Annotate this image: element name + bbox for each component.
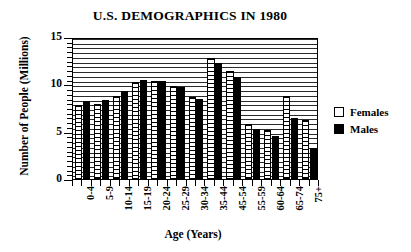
y-axis-minor-tick [67,100,72,101]
y-axis-minor-tick [67,90,72,91]
bar-males [272,136,279,179]
legend: Females Males [334,104,408,138]
legend-swatch-females-icon [334,107,344,117]
bar-females [94,104,101,179]
x-axis-category-label: 55-59 [256,186,270,230]
bar-males [140,80,147,179]
x-axis-category-label: 35-44 [218,186,232,230]
y-axis-tick-label: 15 [36,30,62,42]
bar-females [113,96,120,179]
y-axis-minor-tick [67,137,72,138]
y-axis-minor-tick [67,147,72,148]
y-axis-minor-tick [67,76,72,77]
bar-females [151,81,158,179]
chart-container: U.S. DEMOGRAPHICS IN 1980 Number of Peop… [0,0,411,252]
y-axis-tick-label: 10 [36,77,62,89]
y-axis-minor-tick [67,57,72,58]
y-axis-minor-tick [67,175,72,176]
chart-title: U.S. DEMOGRAPHICS IN 1980 [58,8,322,24]
bar-females [132,82,139,179]
y-axis-minor-tick [67,123,72,124]
bar-females [245,124,252,179]
bar-series-group [73,39,317,179]
y-axis-minor-tick [67,43,72,44]
x-axis-title: Age (Years) [68,228,318,240]
y-axis-title: Number of People (Millions) [18,26,30,186]
bar-males [121,91,128,179]
y-axis-minor-tick [67,47,72,48]
x-axis-category-label: 10-14 [123,186,137,230]
y-axis-minor-tick [67,95,72,96]
bar-females [170,86,177,179]
y-axis-minor-tick [67,109,72,110]
bar-males [158,81,165,179]
legend-item-males: Males [334,121,408,136]
x-axis-category-label: 25-29 [180,186,194,230]
y-axis-minor-tick [67,66,72,67]
y-axis-minor-tick [67,152,72,153]
x-axis-category-label: 30-34 [199,186,213,230]
bar-females [189,97,196,179]
y-axis-minor-tick [67,104,72,105]
y-axis-minor-tick [67,166,72,167]
legend-swatch-males-icon [334,124,344,134]
bar-females [264,130,271,179]
x-axis-category-labels: 0-45-910-1415-1920-2425-2930-3435-4445-5… [72,186,318,230]
bar-males [253,129,260,179]
bar-males [177,87,184,179]
x-axis-category-label: 5-9 [104,186,118,230]
bar-females [302,120,309,179]
y-axis-tick-label: 5 [36,125,62,137]
y-axis-major-tick [64,180,72,181]
y-axis-minor-tick [67,81,72,82]
y-axis-major-tick [64,133,72,134]
bar-males [310,148,317,179]
y-axis-minor-tick [67,62,72,63]
y-axis-minor-tick [67,71,72,72]
bar-males [102,100,109,179]
bar-males [291,118,298,179]
plot-area [72,38,318,180]
x-axis-category-label: 65-74 [294,186,308,230]
x-axis-category-label: 60-64 [275,186,289,230]
bar-females [283,96,290,179]
y-axis-minor-tick [67,52,72,53]
bar-males [83,101,90,179]
x-axis-category-label: 20-24 [161,186,175,230]
x-axis-category-label: 75+ [313,186,327,230]
y-axis-minor-tick [67,118,72,119]
x-axis-category-label: 0-4 [85,186,99,230]
x-axis-category-label: 15-19 [142,186,156,230]
bar-females [226,71,233,179]
legend-label-males: Males [350,123,378,135]
y-axis-minor-tick [67,161,72,162]
bar-males [215,63,222,179]
bar-females [75,105,82,179]
y-axis-minor-tick [67,142,72,143]
y-axis-minor-tick [67,156,72,157]
y-axis-major-tick [64,38,72,39]
bar-males [196,99,203,179]
bar-females [207,58,214,179]
y-axis-major-tick [64,85,72,86]
y-axis-minor-tick [67,171,72,172]
x-axis-category-label: 45-54 [237,186,251,230]
y-axis-minor-tick [67,128,72,129]
legend-label-females: Females [350,106,388,118]
legend-item-females: Females [334,104,408,119]
y-axis-tick-label: 0 [36,172,62,184]
y-axis-minor-tick [67,114,72,115]
bar-males [234,77,241,179]
